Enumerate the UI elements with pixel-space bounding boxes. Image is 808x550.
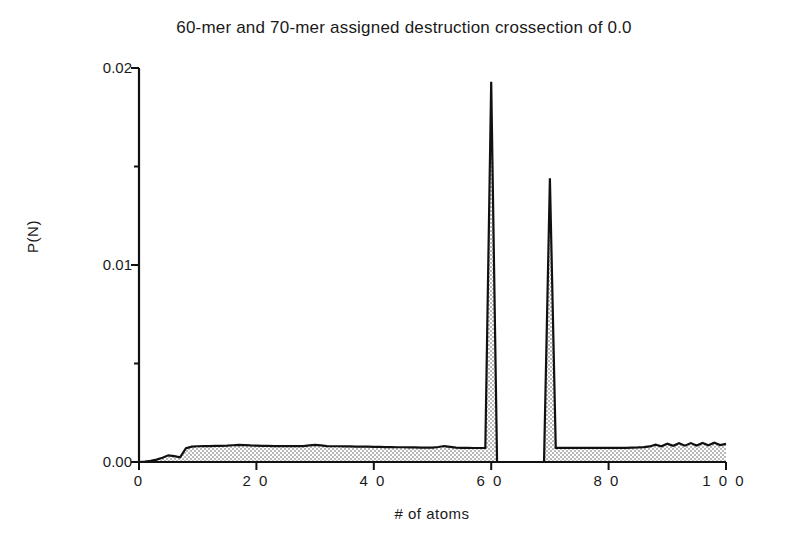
data-series-area: [139, 82, 726, 462]
axis-lines: [139, 68, 726, 462]
axis-ticks: [131, 68, 726, 470]
area-fill: [139, 82, 726, 462]
chart-figure: 60-mer and 70-mer assigned destruction c…: [0, 0, 808, 550]
series-outline: [139, 82, 726, 462]
plot-canvas: [0, 0, 808, 550]
